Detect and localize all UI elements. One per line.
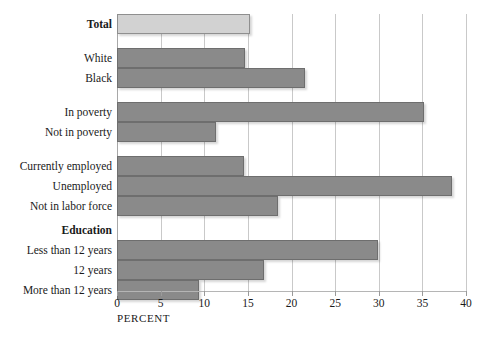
bar-row bbox=[117, 102, 466, 122]
bar[interactable] bbox=[117, 240, 378, 260]
category-label: In poverty bbox=[0, 102, 112, 122]
category-axis-labels: TotalWhiteBlackIn povertyNot in povertyC… bbox=[0, 14, 112, 291]
bar[interactable] bbox=[117, 156, 244, 176]
gridline-40 bbox=[466, 14, 467, 291]
category-label: Unemployed bbox=[0, 176, 112, 196]
category-label: Not in labor force bbox=[0, 196, 112, 216]
plot-area bbox=[117, 14, 466, 291]
x-tick-label: 10 bbox=[199, 296, 211, 310]
category-label: Less than 12 years bbox=[0, 240, 112, 260]
category-label: More than 12 years bbox=[0, 280, 112, 300]
bar-row bbox=[117, 122, 466, 142]
bar[interactable] bbox=[117, 176, 452, 196]
bar-row bbox=[117, 220, 466, 240]
x-tick-label: 0 bbox=[114, 296, 120, 310]
bar[interactable] bbox=[117, 48, 245, 68]
bar[interactable] bbox=[117, 260, 264, 280]
bar[interactable] bbox=[117, 68, 305, 88]
bar-chart: TotalWhiteBlackIn povertyNot in povertyC… bbox=[0, 0, 492, 344]
x-tick-label: 30 bbox=[373, 296, 385, 310]
bar-rows bbox=[117, 14, 466, 291]
category-label: White bbox=[0, 48, 112, 68]
bar-row bbox=[117, 48, 466, 68]
x-tick-label: 20 bbox=[286, 296, 298, 310]
bar-row bbox=[117, 156, 466, 176]
bar[interactable] bbox=[117, 14, 250, 34]
x-tick-label: 40 bbox=[460, 296, 472, 310]
bar[interactable] bbox=[117, 196, 278, 216]
x-tick-label: 25 bbox=[329, 296, 341, 310]
bar-row bbox=[117, 14, 466, 34]
bar-row bbox=[117, 260, 466, 280]
x-tick-label: 5 bbox=[158, 296, 164, 310]
x-tick-label: 35 bbox=[417, 296, 429, 310]
x-axis-title: PERCENT bbox=[117, 312, 170, 324]
category-label: Total bbox=[0, 14, 112, 34]
bar-row bbox=[117, 240, 466, 260]
category-label: Education bbox=[0, 220, 112, 240]
bar-row bbox=[117, 196, 466, 216]
bar[interactable] bbox=[117, 122, 216, 142]
bar-row bbox=[117, 176, 466, 196]
category-label: Black bbox=[0, 68, 112, 88]
x-tick-label: 15 bbox=[242, 296, 254, 310]
category-label: 12 years bbox=[0, 260, 112, 280]
bar[interactable] bbox=[117, 102, 424, 122]
category-label: Not in poverty bbox=[0, 122, 112, 142]
category-label: Currently employed bbox=[0, 156, 112, 176]
bar-row bbox=[117, 68, 466, 88]
